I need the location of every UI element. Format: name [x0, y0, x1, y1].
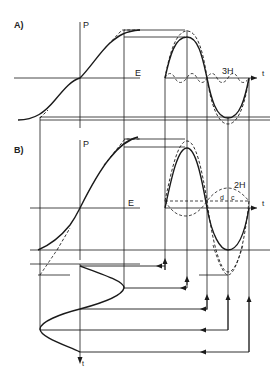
panel-b-transfer-curve — [38, 137, 138, 250]
panel-b-t-arrow-icon — [251, 206, 257, 211]
panel-b-linear-approx-high — [104, 139, 140, 165]
panel-b-point-c: c — [231, 194, 235, 201]
panel-b-point-d: d — [220, 194, 224, 201]
panel-a-label: A) — [14, 20, 24, 30]
panel-a-e-label: E — [135, 68, 141, 78]
panel-b-t-label: t — [262, 199, 265, 208]
panel-a-harmonic-label: 3H — [222, 66, 234, 76]
panel-a-linear-approx-high — [105, 30, 140, 48]
panel-b — [30, 137, 270, 275]
panel-b-linear-approx-low — [57, 228, 70, 250]
panel-a-p-label: P — [83, 20, 89, 30]
panel-b-harmonic-label: 2H — [234, 180, 246, 190]
panel-b-e-label: E — [128, 198, 134, 208]
panel-a-transfer-curve — [18, 30, 140, 120]
panel-b-p-label: P — [83, 139, 89, 149]
panel-a-t-arrow-icon — [251, 76, 257, 81]
transfer-characteristic-diagram: A) P E 3H t B) P E 2H d c t — [0, 0, 280, 381]
input-t-label: t — [82, 360, 84, 367]
mapping-arrows — [40, 258, 252, 355]
input-signal — [38, 250, 228, 364]
panel-a-t-label: t — [262, 69, 265, 78]
panel-b-label: B) — [14, 145, 24, 155]
